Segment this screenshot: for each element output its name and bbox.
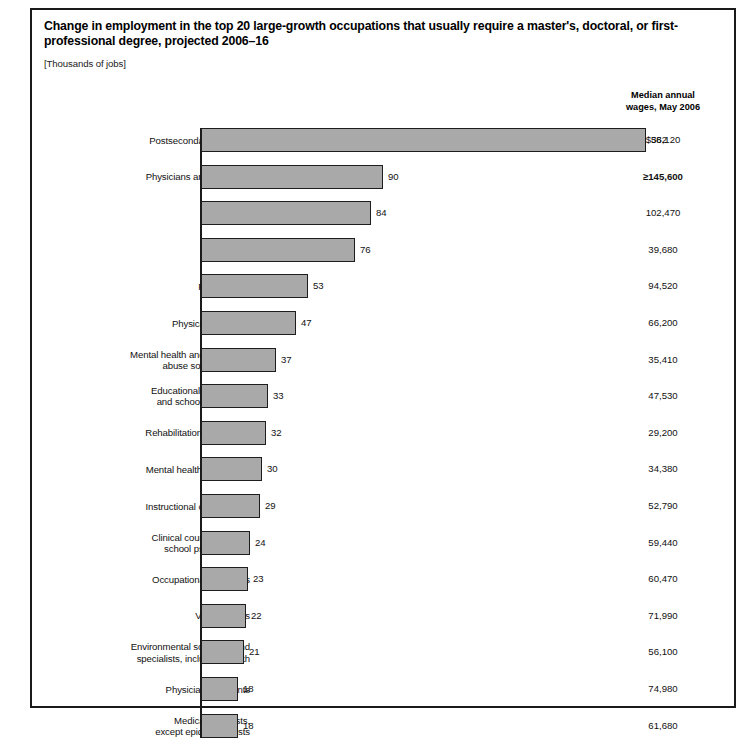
median-wage-value: 66,200 — [604, 317, 722, 328]
bar-value-label: 53 — [313, 280, 324, 291]
bar-value-label: 84 — [376, 207, 387, 218]
bar — [201, 567, 248, 591]
chart-row: Rehabilitation counselors3229,200 — [32, 421, 738, 445]
bar-value-label: 30 — [267, 463, 278, 474]
median-wage-value: 52,790 — [604, 500, 722, 511]
bar-value-label: 29 — [265, 500, 276, 511]
chart-row: Postsecondary teachers382$56,120 — [32, 128, 738, 152]
median-wage-value: 102,470 — [604, 207, 722, 218]
bar — [201, 604, 246, 628]
bar-value-label: 23 — [253, 573, 264, 584]
median-wage-value: 60,470 — [604, 573, 722, 584]
bar — [201, 531, 250, 555]
units-note: [Thousands of jobs] — [44, 58, 126, 69]
chart-title: Change in employment in the top 20 large… — [44, 19, 722, 48]
median-wage-value: 35,410 — [604, 354, 722, 365]
chart-row: Clinical counseling, andschool psycholog… — [32, 531, 738, 555]
bar-value-label: 47 — [301, 317, 312, 328]
bar — [201, 274, 308, 298]
chart-row: Medical scientists,except epidemiologist… — [32, 714, 738, 738]
bar — [201, 238, 355, 262]
chart-row: Lawyers84102,470 — [32, 201, 738, 225]
bar-value-label: 18 — [243, 683, 254, 694]
chart-row: Mental health counselors3034,380 — [32, 457, 738, 481]
chart-row: Clergy7639,680 — [32, 238, 738, 262]
bar — [201, 311, 296, 335]
median-wage-value: 59,440 — [604, 537, 722, 548]
median-wage-value: 74,980 — [604, 683, 722, 694]
median-wage-value: 71,990 — [604, 610, 722, 621]
median-wage-value: 34,380 — [604, 463, 722, 474]
chart-row: Physicians and surgeons90≥145,600 — [32, 165, 738, 189]
bar-value-label: 33 — [273, 390, 284, 401]
bar-value-label: 90 — [388, 171, 399, 182]
bar — [201, 128, 646, 152]
bar — [201, 677, 238, 701]
bar — [201, 165, 383, 189]
chart-row: Physical therapists4766,200 — [32, 311, 738, 335]
bar — [201, 494, 260, 518]
bar-value-label: 76 — [360, 244, 371, 255]
bar-value-label: 18 — [243, 720, 254, 731]
chart-row: Environmental scientists andspecialists,… — [32, 640, 738, 664]
bar — [201, 348, 276, 372]
chart-row: Instructional coordinators2952,790 — [32, 494, 738, 518]
chart-row: Educational, vocational,and school couns… — [32, 384, 738, 408]
wages-header-line-1: Median annual — [604, 90, 722, 102]
bar-value-label: 24 — [255, 537, 266, 548]
chart-row: Veterinarians2271,990 — [32, 604, 738, 628]
chart-row: Pharmacists5394,520 — [32, 274, 738, 298]
median-wage-value: $56,120 — [604, 134, 722, 145]
bar — [201, 201, 371, 225]
chart-frame: Change in employment in the top 20 large… — [30, 8, 736, 708]
wages-column-header: Median annual wages, May 2006 — [604, 90, 722, 113]
bar — [201, 714, 238, 738]
bar-value-label: 37 — [281, 354, 292, 365]
bar — [201, 384, 268, 408]
chart-row: Mental health and substanceabuse social … — [32, 348, 738, 372]
median-wage-value: 39,680 — [604, 244, 722, 255]
median-wage-value: 47,530 — [604, 390, 722, 401]
median-wage-value: 29,200 — [604, 427, 722, 438]
wages-header-line-2: wages, May 2006 — [604, 102, 722, 114]
bar-value-label: 22 — [251, 610, 262, 621]
chart-row: Physician assistants1874,980 — [32, 677, 738, 701]
median-wage-value: 56,100 — [604, 646, 722, 657]
median-wage-value: 61,680 — [604, 720, 722, 731]
bar-value-label: 21 — [249, 646, 260, 657]
bar-value-label: 32 — [271, 427, 282, 438]
bar — [201, 421, 266, 445]
median-wage-value: ≥145,600 — [604, 171, 722, 182]
chart-row: Occupational therapists2360,470 — [32, 567, 738, 591]
median-wage-value: 94,520 — [604, 280, 722, 291]
bar — [201, 640, 244, 664]
bar — [201, 457, 262, 481]
